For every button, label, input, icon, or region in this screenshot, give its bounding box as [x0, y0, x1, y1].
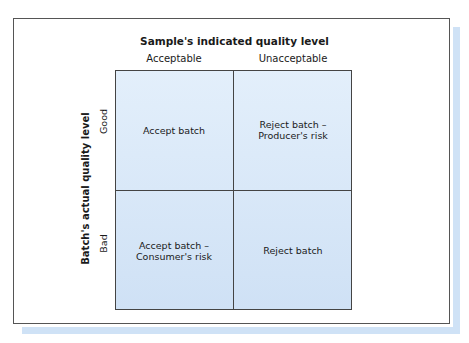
column-label-unacceptable: Unacceptable — [234, 53, 352, 64]
y-axis-title: Batch's actual quality level — [80, 99, 91, 279]
column-label-acceptable: Acceptable — [115, 53, 233, 64]
cell-text-line1: Reject batch – — [258, 119, 328, 130]
cell-good-unacceptable: Reject batch – Producer's risk — [234, 70, 352, 190]
cell-good-acceptable: Accept batch — [115, 70, 233, 190]
frame-shadow-bottom — [22, 327, 460, 334]
x-axis-title: Sample's indicated quality level — [0, 35, 469, 47]
cell-text-line1: Accept batch – — [136, 240, 212, 251]
row-label-good: Good — [98, 102, 109, 142]
frame-shadow-right — [453, 27, 460, 333]
cell-text-line2: Consumer's risk — [136, 251, 212, 262]
cell-text-line2: Producer's risk — [258, 130, 328, 141]
cell-bad-acceptable: Accept batch – Consumer's risk — [115, 191, 233, 310]
cell-text: Reject batch — [263, 245, 322, 256]
cell-text: Accept batch — [143, 125, 205, 136]
cell-bad-unacceptable: Reject batch — [234, 191, 352, 310]
row-label-bad: Bad — [98, 224, 109, 264]
